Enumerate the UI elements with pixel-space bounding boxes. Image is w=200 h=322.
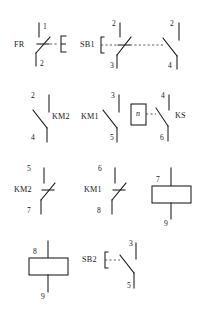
terminal-label-sb2-3: 3 (129, 240, 133, 248)
device-label-km1-no: KM1 (81, 113, 99, 121)
terminal-label-km1b-8: 8 (97, 207, 101, 215)
terminal-label-fr-2: 2 (40, 60, 44, 68)
terminal-label-ks-4: 4 (161, 92, 165, 100)
terminal-label-coil1-9: 9 (164, 220, 168, 228)
terminal-label-coil1-7: 7 (156, 176, 160, 184)
km1-nc-contact-symbol (112, 168, 126, 214)
terminal-label-sb1b-2: 2 (170, 20, 174, 28)
terminal-label-fr-1: 1 (43, 23, 47, 31)
terminal-label-ks-6: 6 (160, 134, 164, 142)
terminal-label-km2b-5: 5 (27, 165, 31, 173)
device-label-km1-nc: KM1 (84, 186, 102, 194)
device-label-sb1: SB1 (80, 41, 95, 49)
terminal-label-km1b-6: 6 (98, 165, 102, 173)
terminal-label-sb1-2: 2 (112, 20, 116, 28)
device-label-fr: FR (14, 41, 24, 49)
device-label-sb2: SB2 (82, 256, 97, 264)
terminal-label-coil2-9: 9 (41, 293, 45, 301)
terminal-label-sb2-5: 5 (127, 282, 131, 290)
terminal-label-km1a-5: 5 (110, 134, 114, 142)
device-label-km2-nc: KM2 (14, 186, 32, 194)
terminal-label-km2a-2: 2 (31, 92, 35, 100)
km2-nc-contact-symbol (41, 168, 55, 214)
schematic-canvas: FR 1 2 SB1 2 3 2 4 KM2 2 4 KM1 3 5 n KS … (0, 0, 200, 322)
device-label-ks: KS (175, 112, 186, 120)
km2-no-contact-symbol (33, 95, 49, 142)
terminal-label-km2b-7: 7 (27, 207, 31, 215)
terminal-label-coil2-8: 8 (33, 248, 37, 256)
sb2-no-contact-symbol (105, 243, 136, 288)
terminal-label-sb1b-4: 4 (168, 62, 172, 70)
terminal-label-km1a-3: 3 (111, 92, 115, 100)
schematic-vector-layer (0, 0, 200, 322)
terminal-label-sb1-3: 3 (110, 62, 114, 70)
speed-relay-n-label: n (136, 110, 140, 118)
device-label-km2-no: KM2 (52, 113, 70, 121)
terminal-label-km2a-4: 4 (31, 134, 35, 142)
